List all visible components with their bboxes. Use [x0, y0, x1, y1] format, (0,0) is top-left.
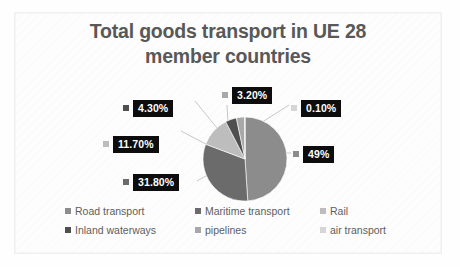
legend-label-air-transport: air transport — [330, 224, 386, 236]
legend-item-maritime-transport[interactable]: Maritime transport — [195, 205, 320, 217]
data-label-marker-road-transport — [293, 151, 299, 157]
data-label-value-maritime-transport: 31.80% — [133, 174, 179, 191]
legend-label-pipelines: pipelines — [205, 224, 246, 236]
legend-item-rail[interactable]: Rail — [320, 205, 348, 217]
legend-item-air-transport[interactable]: air transport — [320, 224, 386, 236]
data-label-maritime-transport: 31.80% — [123, 174, 179, 191]
legend-label-inland-waterways: Inland waterways — [75, 224, 156, 236]
data-label-marker-maritime-transport — [123, 179, 129, 185]
data-label-pipelines: 3.20% — [222, 87, 272, 104]
data-label-rail: 11.70% — [103, 136, 159, 153]
legend-item-pipelines[interactable]: pipelines — [195, 224, 320, 236]
legend-marker-pipelines — [195, 227, 201, 233]
legend-marker-maritime-transport — [195, 208, 201, 214]
legend-marker-air-transport — [320, 227, 326, 233]
data-label-inland-waterways: 4.30% — [123, 100, 173, 117]
data-label-marker-rail — [103, 141, 109, 147]
data-label-marker-inland-waterways — [123, 105, 129, 111]
data-label-value-road-transport: 49% — [303, 146, 334, 163]
legend-label-rail: Rail — [330, 205, 348, 217]
data-label-marker-pipelines — [222, 92, 228, 98]
pie-slice-road-transport[interactable] — [245, 117, 287, 201]
chart-frame: Total goods transport in UE 28 member co… — [14, 12, 442, 254]
data-label-value-air-transport: 0.10% — [301, 100, 341, 117]
legend-item-road-transport[interactable]: Road transport — [65, 205, 195, 217]
data-label-value-inland-waterways: 4.30% — [133, 100, 173, 117]
data-label-road-transport: 49% — [293, 146, 334, 163]
legend-label-maritime-transport: Maritime transport — [205, 205, 290, 217]
legend-marker-road-transport — [65, 208, 71, 214]
legend-marker-inland-waterways — [65, 227, 71, 233]
data-label-marker-air-transport — [291, 105, 297, 111]
data-label-value-pipelines: 3.20% — [232, 87, 272, 104]
data-label-value-rail: 11.70% — [113, 136, 159, 153]
legend-row-1: Road transport Maritime transport Rail — [65, 201, 405, 220]
chart-legend: Road transport Maritime transport Rail I… — [65, 201, 405, 239]
legend-label-road-transport: Road transport — [75, 205, 144, 217]
data-label-air-transport: 0.10% — [291, 100, 341, 117]
legend-item-inland-waterways[interactable]: Inland waterways — [65, 224, 195, 236]
legend-row-2: Inland waterways pipelines air transport — [65, 220, 405, 239]
legend-marker-rail — [320, 208, 326, 214]
pie-slices-group — [203, 117, 287, 201]
